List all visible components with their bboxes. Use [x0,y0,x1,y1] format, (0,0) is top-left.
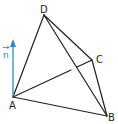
normal-vector-arrowhead-icon [10,39,16,47]
edge-cb [92,60,107,116]
edge-ab [13,97,107,116]
vertex-label-a: A [9,100,16,111]
vertex-label-c: C [96,54,103,65]
edge-ac-part2 [77,60,92,67]
normal-vector-label: n [3,50,9,60]
edge-db [44,15,107,116]
vertex-label-d: D [40,4,48,15]
vertex-label-b: B [108,112,115,123]
tetrahedron-diagram: → n A B C D [0,0,118,124]
